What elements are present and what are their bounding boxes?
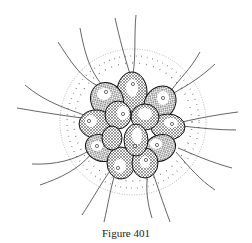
figure-caption: Figure 401 [0,227,252,240]
colony-illustration [0,0,252,228]
figure: Figure 401 [0,0,252,243]
